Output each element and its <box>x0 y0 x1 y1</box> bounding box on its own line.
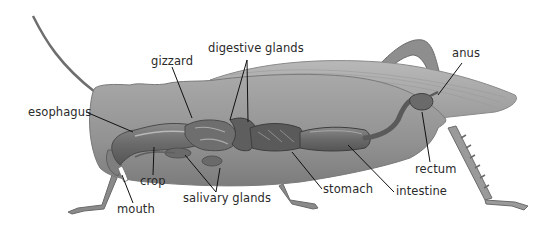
label-salivary-glands: salivary glands <box>183 193 271 205</box>
rectum-shape <box>410 94 433 111</box>
label-rectum: rectum <box>415 164 456 176</box>
label-gizzard: gizzard <box>151 56 193 68</box>
label-mouth: mouth <box>117 204 155 216</box>
antenna <box>33 16 95 92</box>
label-stomach: stomach <box>323 184 373 196</box>
label-anus: anus <box>452 48 480 60</box>
hind-leg-tarsus <box>485 200 528 210</box>
label-esophagus: esophagus <box>28 107 91 119</box>
front-leg <box>68 175 117 214</box>
grasshopper-diagram: digestive glands gizzard anus esophagus … <box>0 0 560 225</box>
label-digestive-glands: digestive glands <box>208 43 304 55</box>
label-intestine: intestine <box>396 186 447 198</box>
salivary-gland-2 <box>202 156 222 166</box>
label-crop: crop <box>140 176 166 188</box>
middle-leg <box>279 184 318 209</box>
